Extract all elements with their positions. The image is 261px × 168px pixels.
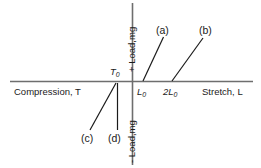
x-tick-label-L0: L0 (137, 87, 146, 98)
x-axis-compression-symbol: T (75, 86, 81, 97)
curve-label-c: (c) (81, 133, 93, 144)
x-tick-L0-sub: 0 (142, 91, 146, 98)
x-origin-T0-sub: 0 (116, 71, 120, 78)
y-axis-positive-unit: mg (126, 27, 137, 40)
leader-line-c (90, 83, 116, 130)
y-axis-negative-text: - Load, (126, 133, 137, 163)
y-axis-negative-label: - Load,mg (127, 120, 137, 163)
x-tick-2L0-base: 2L (163, 86, 174, 97)
curve-label-b: (b) (199, 25, 212, 36)
x-tick-label-2L0: 2L0 (163, 87, 177, 98)
x-axis-compression-label: Compression, T (14, 87, 81, 97)
curve-label-a: (a) (156, 25, 169, 36)
x-axis-stretch-text: Stretch, (202, 86, 235, 97)
y-axis-positive-text: + Load, (126, 40, 137, 72)
x-axis-stretch-symbol: L (237, 86, 242, 97)
x-axis-stretch-label: Stretch, L (202, 87, 243, 97)
curve-line-b (172, 38, 203, 81)
curve-label-d: (d) (108, 133, 121, 144)
x-tick-2L0-sub: 0 (174, 91, 178, 98)
y-axis-positive-label: + Load,mg (127, 27, 137, 72)
stress-strain-diagram: + Load,mg - Load,mg Compression, T Stret… (0, 0, 261, 168)
x-origin-label-T0: T0 (110, 67, 120, 78)
y-axis-negative-unit: mg (126, 120, 137, 133)
x-axis-compression-text: Compression, (14, 86, 73, 97)
curve-line-a (143, 37, 164, 81)
